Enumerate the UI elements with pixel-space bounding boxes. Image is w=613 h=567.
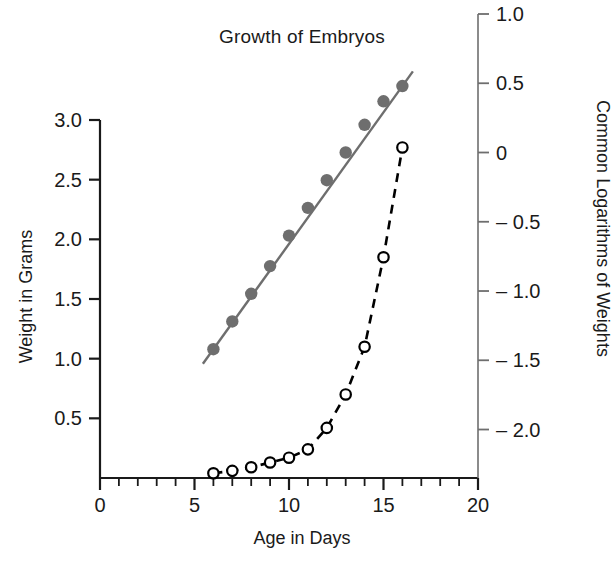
axes-group [89, 14, 489, 490]
data-point-filled [340, 146, 352, 158]
x-tick-label: 15 [372, 494, 394, 516]
data-point-open [359, 342, 369, 352]
data-point-open [303, 444, 313, 454]
data-point-filled [264, 260, 276, 272]
data-point-open [265, 457, 275, 467]
x-tick-label: 5 [189, 494, 200, 516]
y-tick-label-left: 1.5 [54, 288, 82, 310]
data-point-open [227, 466, 237, 476]
y-tick-label-left: 0.5 [54, 407, 82, 429]
y-tick-label-right: 0 [496, 142, 507, 164]
data-point-filled [302, 202, 314, 214]
y-tick-label-right: 1.0 [496, 3, 524, 25]
data-point-filled [226, 315, 238, 327]
data-point-open [246, 462, 256, 472]
data-point-filled [396, 80, 408, 92]
data-point-open [341, 389, 351, 399]
y-tick-label-left: 3.0 [54, 109, 82, 131]
data-point-filled [321, 174, 333, 186]
y-axis-label-right: Common Logarithms of Weights [592, 79, 613, 379]
y-tick-label-right: – 2.0 [496, 419, 540, 441]
y-tick-label-right: 0.5 [496, 72, 524, 94]
y-tick-label-right: – 1.5 [496, 349, 540, 371]
data-point-filled [207, 343, 219, 355]
data-point-filled [245, 288, 257, 300]
data-point-filled [358, 119, 370, 131]
data-point-filled [377, 95, 389, 107]
chart-title: Growth of Embryos [0, 26, 604, 48]
y-tick-label-right: – 0.5 [496, 211, 540, 233]
data-point-filled [283, 229, 295, 241]
x-axis-label: Age in Days [0, 528, 604, 549]
y-tick-label-left: 2.0 [54, 228, 82, 250]
y-tick-label-left: 2.5 [54, 169, 82, 191]
data-point-open [322, 423, 332, 433]
data-point-open [378, 252, 388, 262]
tick-labels-group: 051015200.51.01.52.02.53.01.00.50– 0.5– … [54, 3, 540, 516]
x-tick-label: 10 [278, 494, 300, 516]
data-series-group [203, 71, 413, 478]
data-point-open [208, 468, 218, 478]
data-point-open [397, 142, 407, 152]
x-tick-label: 20 [467, 494, 489, 516]
y-axis-label-left: Weight in Grams [16, 167, 37, 427]
x-tick-label: 0 [94, 494, 105, 516]
y-tick-label-right: – 1.0 [496, 280, 540, 302]
y-tick-label-left: 1.0 [54, 348, 82, 370]
data-point-open [284, 453, 294, 463]
